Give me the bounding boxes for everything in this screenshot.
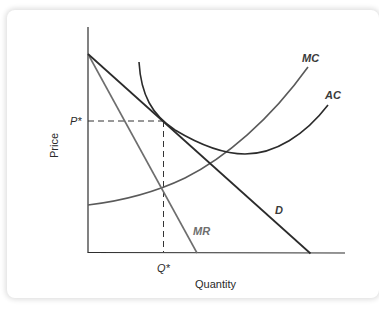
mr-label: MR: [193, 225, 210, 237]
q-star-label: Q*: [157, 262, 171, 274]
mc-curve: [88, 67, 308, 205]
x-axis: [88, 253, 346, 254]
ac-label: AC: [324, 89, 342, 101]
demand-curve: [88, 54, 311, 254]
mc-label: MC: [302, 52, 320, 64]
p-star-label: P*: [70, 115, 82, 127]
demand-label: D: [275, 204, 283, 216]
y-axis-title: Price: [48, 133, 60, 158]
x-axis-title: Quantity: [195, 278, 236, 290]
ac-curve: [139, 62, 328, 154]
